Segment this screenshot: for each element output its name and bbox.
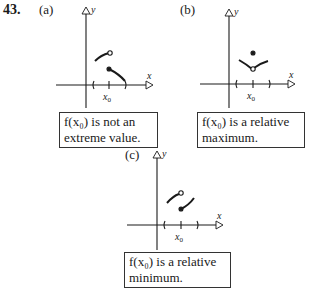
- panel-a-tick-x0: x0: [102, 91, 111, 104]
- panel-b-y-axis-label: y: [233, 6, 239, 17]
- panel-c-y-axis-label: y: [161, 148, 167, 159]
- panel-a-caption: f(x₀) is not an extreme value.: [59, 112, 158, 148]
- panel-a-x-axis-label: x: [146, 70, 152, 81]
- panel-b-caption-line2: maximum.: [202, 130, 300, 146]
- panel-c-x-axis-label: x: [216, 210, 222, 221]
- panel-c-tick-x0: x0: [174, 231, 183, 244]
- panel-b-x-axis-label: x: [288, 69, 294, 80]
- panel-b-caption-line1: f(x₀) is a relative: [202, 114, 300, 130]
- panel-a-y-axis-label: y: [90, 4, 96, 15]
- panel-c-caption-line2: minimum.: [129, 270, 226, 286]
- panel-c-caption: f(x₀) is a relative minimum.: [124, 252, 231, 288]
- panel-a-caption-line2: extreme value.: [64, 130, 153, 146]
- panel-c-caption-line1: f(x₀) is a relative: [129, 254, 226, 270]
- panel-b-caption: f(x₀) is a relative maximum.: [197, 112, 305, 148]
- panel-a-caption-line1: f(x₀) is not an: [64, 114, 153, 130]
- panel-b-tick-x0: x0: [246, 90, 255, 103]
